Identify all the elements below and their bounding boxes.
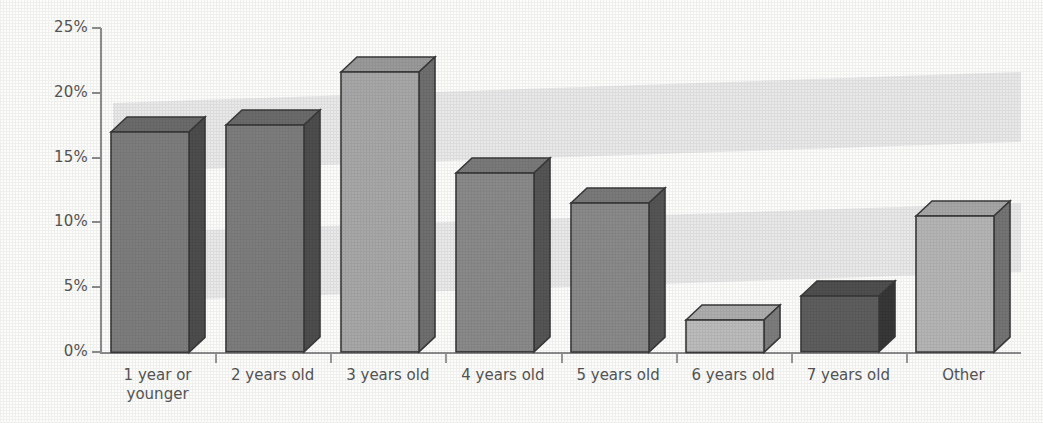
y-tick-label: 25% (30, 18, 88, 36)
bar-front-face (226, 125, 304, 352)
bar-side-face (419, 57, 435, 352)
bar-side-face (649, 188, 665, 352)
y-tick-mark (92, 157, 101, 159)
y-tick-label: 10% (30, 212, 88, 230)
bar-front-face (456, 173, 534, 352)
bar-5 (571, 188, 665, 352)
x-tick-mark (906, 354, 908, 363)
y-axis-line (100, 28, 102, 354)
y-tick-label: 5% (30, 277, 88, 295)
bar-front-face (801, 296, 879, 352)
bar-side-face (534, 158, 550, 352)
y-tick-mark (92, 92, 101, 94)
x-tick-label: 4 years old (445, 366, 560, 385)
bar-front-face (571, 203, 649, 352)
bar-3 (341, 57, 435, 352)
y-tick-label: 0% (30, 342, 88, 360)
x-tick-label: 3 years old (330, 366, 445, 385)
x-tick-label: 1 year or younger (100, 366, 215, 404)
x-tick-label: Other (906, 366, 1021, 385)
y-tick-label: 20% (30, 83, 88, 101)
bar-4 (456, 158, 550, 352)
x-tick-label: 5 years old (561, 366, 676, 385)
x-tick-mark (791, 354, 793, 363)
bar-side-face (304, 110, 320, 352)
x-tick-mark (215, 354, 217, 363)
y-tick-mark (92, 27, 101, 29)
bar-chart: 0%5%10%15%20%25% 1 year or younger2 year… (0, 0, 1043, 423)
bar-6 (686, 305, 780, 352)
bar-front-face (111, 132, 189, 352)
bar-front-face (341, 72, 419, 352)
bar-front-face (686, 320, 764, 352)
x-tick-mark (561, 354, 563, 363)
x-tick-label: 2 years old (215, 366, 330, 385)
x-tick-mark (445, 354, 447, 363)
y-tick-mark (92, 221, 101, 223)
bar-side-face (189, 117, 205, 352)
bar-front-face (916, 216, 994, 352)
x-tick-label: 7 years old (791, 366, 906, 385)
y-tick-mark (92, 351, 101, 353)
bar-8 (916, 201, 1010, 352)
x-tick-mark (676, 354, 678, 363)
x-tick-mark (330, 354, 332, 363)
bar-7 (801, 281, 895, 352)
bar-1 (111, 117, 205, 352)
x-tick-label: 6 years old (676, 366, 791, 385)
bar-2 (226, 110, 320, 352)
y-tick-label: 15% (30, 148, 88, 166)
y-tick-mark (92, 286, 101, 288)
bar-side-face (994, 201, 1010, 352)
